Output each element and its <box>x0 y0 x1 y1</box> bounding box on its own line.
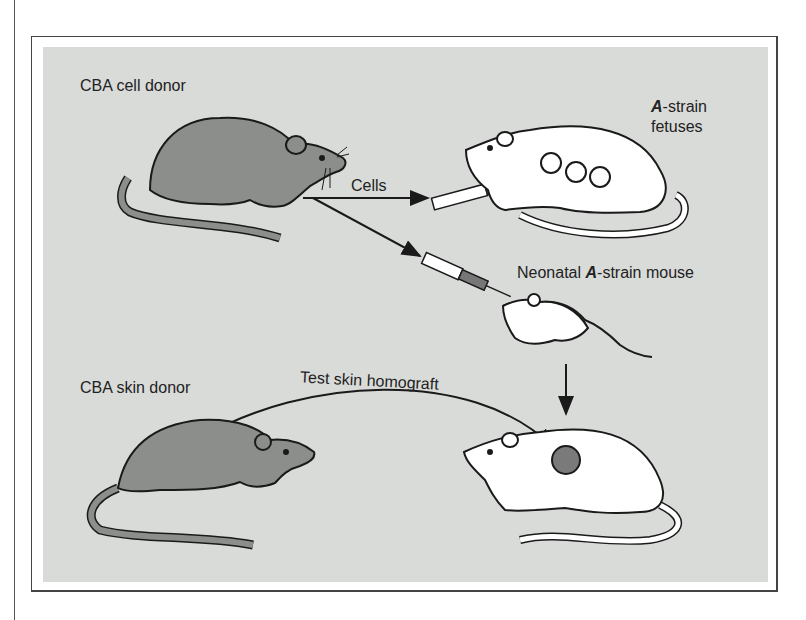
label-a-strain-letter: A <box>651 98 663 115</box>
arrow-to-neonate <box>313 198 420 256</box>
label-fetuses: fetuses <box>651 119 703 135</box>
label-cba-cell-donor: CBA cell donor <box>80 78 186 94</box>
label-cells: Cells <box>351 178 387 194</box>
a-strain-pregnant-mouse-icon <box>466 126 685 234</box>
grafted-a-strain-mouse-icon <box>464 429 678 541</box>
cba-skin-donor-mouse-icon <box>91 420 314 545</box>
label-neonatal-prefix: Neonatal <box>517 264 586 281</box>
neonatal-a-strain-mouse-icon <box>503 294 652 357</box>
label-a-strain: A-strain <box>651 99 707 115</box>
label-neonatal-letter: A <box>586 264 598 281</box>
cba-cell-donor-mouse-icon <box>122 118 350 238</box>
label-neonatal-mouse: Neonatal A-strain mouse <box>517 265 694 281</box>
label-cba-skin-donor: CBA skin donor <box>80 380 190 396</box>
graft-patch-icon <box>552 446 580 474</box>
label-neonatal-suffix: -strain mouse <box>597 264 694 281</box>
label-a-strain-suffix: -strain <box>663 98 707 115</box>
syringe-2-icon <box>422 253 514 303</box>
